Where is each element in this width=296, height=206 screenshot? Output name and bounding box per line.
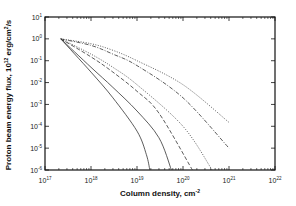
x-tick-label: 1017 bbox=[39, 176, 52, 184]
y-tick-label: 10-4 bbox=[30, 122, 42, 130]
y-tick-label: 10-6 bbox=[30, 166, 42, 174]
curve-curve-2 bbox=[61, 39, 172, 170]
y-tick-label: 100 bbox=[32, 34, 43, 42]
y-tick-label: 10-5 bbox=[30, 144, 42, 152]
curve-curve-3 bbox=[61, 39, 193, 170]
x-tick-labels: 101710181019102010211022 bbox=[39, 176, 282, 184]
y-tick-label: 10-1 bbox=[30, 56, 42, 64]
y-tick-label: 101 bbox=[32, 13, 43, 21]
x-axis-label: Column density, cm-2 bbox=[120, 188, 200, 198]
x-tick-label: 1018 bbox=[85, 176, 98, 184]
curve-curve-1 bbox=[61, 39, 150, 170]
x-tick-label: 1020 bbox=[177, 176, 190, 184]
data-curves bbox=[61, 39, 229, 170]
axis-ticks bbox=[45, 17, 275, 170]
chart: 101710181019102010211022 10110010-110-21… bbox=[0, 0, 296, 206]
y-tick-label: 10-2 bbox=[30, 78, 42, 86]
y-tick-labels: 10110010-110-210-310-410-510-6 bbox=[30, 13, 42, 174]
curve-curve-5 bbox=[61, 39, 229, 148]
x-tick-label: 1019 bbox=[131, 176, 144, 184]
x-tick-label: 1021 bbox=[223, 176, 236, 184]
plot-frame bbox=[45, 17, 275, 170]
y-tick-label: 10-3 bbox=[30, 100, 42, 108]
y-axis-label: Proton beam energy flux, 1012 erg/cm2/s bbox=[3, 19, 13, 170]
x-tick-label: 1022 bbox=[269, 176, 282, 184]
